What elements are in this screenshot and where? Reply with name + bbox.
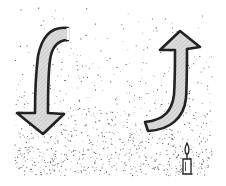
curved-arrow-down-icon bbox=[17, 28, 68, 134]
curved-arrow-up-icon bbox=[145, 31, 200, 131]
convection-diagram bbox=[0, 0, 226, 186]
candle-icon bbox=[183, 143, 191, 174]
